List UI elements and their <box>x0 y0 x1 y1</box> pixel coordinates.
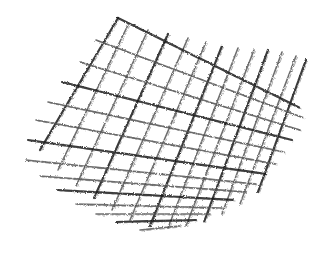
crosshatch-sketch <box>0 0 327 257</box>
background <box>0 0 327 257</box>
